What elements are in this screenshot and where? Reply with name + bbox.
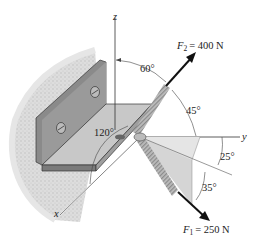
angle-25-label: 25° [220, 151, 235, 162]
z-axis-label: z [112, 11, 117, 22]
bolt-icon [57, 123, 66, 134]
force-f2-arrow [166, 52, 196, 86]
bolt-icon [91, 87, 100, 98]
angle-120-label: 120° [94, 127, 114, 138]
projection-plane [140, 137, 232, 205]
force-f2-label: F2= 400 N [176, 40, 224, 53]
y-axis-label: y [241, 131, 247, 142]
force-f1-label: F1= 250 N [182, 224, 230, 237]
angle-60-label: 60° [140, 63, 155, 74]
force-diagram: z y x F2= 400 N F1= 250 N [0, 0, 264, 246]
angle-35-label: 35° [202, 182, 217, 193]
angle-45-label: 45° [186, 105, 201, 116]
x-axis-label: x [53, 208, 59, 219]
force-f1-arrow [178, 192, 210, 221]
